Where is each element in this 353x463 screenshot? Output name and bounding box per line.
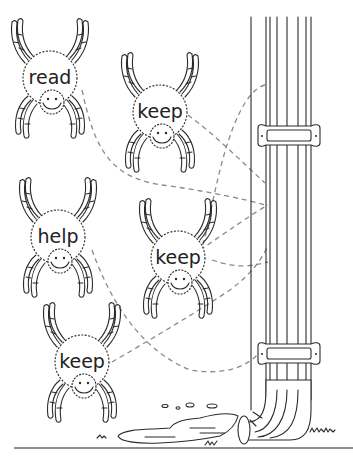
spider-word: keep xyxy=(155,246,201,268)
spider-word: keep xyxy=(59,350,105,372)
spider-word: help xyxy=(37,225,78,247)
spider-read: read xyxy=(12,19,89,139)
worksheet-illustration: read keep help keep keep xyxy=(0,0,353,463)
spider-keep-top: keep xyxy=(122,53,199,173)
spider-keep-middle: keep xyxy=(140,199,217,319)
spider-word: read xyxy=(29,66,72,88)
drainpipe xyxy=(238,17,320,444)
spider-keep-bottom: keep xyxy=(44,303,121,423)
spider-word: keep xyxy=(137,100,183,122)
spider-help: help xyxy=(20,178,97,298)
